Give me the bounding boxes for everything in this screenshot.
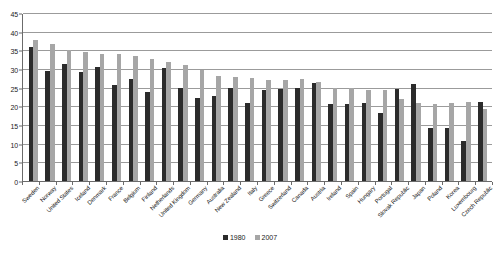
bar-group [325, 14, 342, 181]
bar-group [125, 14, 142, 181]
bar-2007 [399, 99, 404, 181]
bar-2007 [383, 90, 388, 181]
bar-group [374, 14, 391, 181]
bar-group [258, 14, 275, 181]
bar-2007 [349, 88, 354, 181]
bar-group [58, 14, 75, 181]
bar-2007 [283, 80, 288, 181]
legend-swatch-icon [255, 235, 260, 240]
bar-group [391, 14, 408, 181]
plot-area [22, 14, 492, 182]
bar-2007 [216, 76, 221, 181]
bar-group [408, 14, 425, 181]
bar-group [191, 14, 208, 181]
x-axis-label: Korea [445, 185, 460, 200]
bar-2007 [117, 54, 122, 181]
bar-group [92, 14, 109, 181]
bar-2007 [183, 65, 188, 181]
bar-2007 [466, 102, 471, 181]
bar-2007 [233, 77, 238, 181]
bar-group [108, 14, 125, 181]
bar-2007 [333, 88, 338, 181]
x-axis-tick-mark [492, 182, 493, 185]
bar-2007 [266, 80, 271, 181]
y-axis-tick-label: 5 [14, 160, 18, 167]
y-axis-tick-label: 0 [14, 179, 18, 186]
x-axis-label: Japan [411, 185, 426, 200]
bar-group [208, 14, 225, 181]
bar-group [458, 14, 475, 181]
bar-group [358, 14, 375, 181]
bar-group [225, 14, 242, 181]
bar-group [341, 14, 358, 181]
bar-2007 [433, 104, 438, 181]
bar-group [158, 14, 175, 181]
bar-group [25, 14, 42, 181]
x-axis-label: Spain [345, 185, 360, 200]
chart-legend: 19802007 [0, 234, 500, 241]
x-axis-label: Hungary [356, 185, 376, 205]
bar-group [275, 14, 292, 181]
x-axis-label: Poland [426, 185, 443, 202]
x-axis-label: Belgium [122, 185, 141, 204]
bar-2007 [166, 62, 171, 181]
legend-item: 1980 [223, 234, 246, 241]
x-axis-label: Canada [290, 185, 309, 204]
bar-2007 [83, 52, 88, 181]
bar-2007 [449, 103, 454, 181]
y-axis-tick-label: 30 [11, 67, 18, 74]
bar-2007 [300, 79, 305, 181]
bar-group [42, 14, 59, 181]
bar-chart: 051015202530354045 SwedenNorwayUnited St… [0, 0, 500, 255]
y-axis-tick-label: 15 [11, 123, 18, 130]
y-axis-tick-label: 45 [11, 11, 18, 18]
bar-2007 [316, 82, 321, 181]
x-axis-label: Slovak Republic [376, 185, 410, 219]
bar-2007 [200, 70, 205, 181]
bar-group [141, 14, 158, 181]
x-axis-label: Sweden [21, 185, 40, 204]
bar-2007 [250, 78, 255, 181]
bar-group [308, 14, 325, 181]
bar-group [424, 14, 441, 181]
bar-2007 [483, 109, 488, 181]
x-axis-label: Ireland [326, 185, 343, 202]
bar-2007 [33, 40, 38, 181]
x-axis-category-labels: SwedenNorwayUnited StatesIcelandDenmarkF… [22, 185, 492, 230]
bar-2007 [133, 56, 138, 181]
legend-swatch-icon [223, 235, 228, 240]
bar-group [474, 14, 491, 181]
bar-2007 [150, 59, 155, 181]
legend-item: 2007 [255, 234, 278, 241]
bar-group [441, 14, 458, 181]
bar-2007 [100, 54, 105, 181]
bar-2007 [416, 103, 421, 181]
bar-group [291, 14, 308, 181]
y-axis-tick-label: 40 [11, 29, 18, 36]
bar-2007 [67, 50, 72, 181]
bar-2007 [50, 44, 55, 181]
bar-group [175, 14, 192, 181]
x-axis-label: Italy [247, 185, 259, 197]
y-axis-tick-label: 25 [11, 85, 18, 92]
legend-label: 1980 [230, 234, 246, 241]
bar-group [241, 14, 258, 181]
x-axis-label: Austria [309, 185, 326, 202]
y-axis-tick-label: 35 [11, 48, 18, 55]
x-axis-label: Czech Republic [461, 185, 494, 218]
y-axis-tick-label: 10 [11, 141, 18, 148]
bar-series-container [24, 14, 492, 181]
y-axis: 051015202530354045 [0, 14, 22, 182]
bar-group [75, 14, 92, 181]
legend-label: 2007 [262, 234, 278, 241]
bar-2007 [366, 90, 371, 181]
y-axis-tick-label: 20 [11, 104, 18, 111]
